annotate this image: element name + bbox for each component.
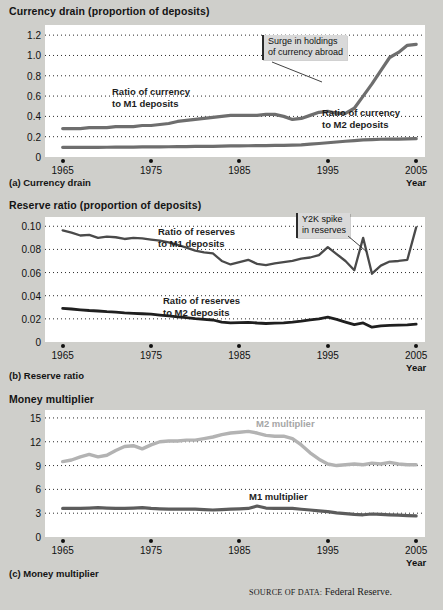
y-tick-label: 15 — [3, 412, 41, 423]
label-ratio-currency-m2: Ratio of currencyto M2 deposits — [322, 107, 400, 131]
y-tick-label: 0.2 — [3, 131, 41, 142]
panel-b-caption: (b) Reserve ratio — [9, 370, 84, 381]
y-tick-label: 9 — [3, 460, 41, 471]
y-tick-label: 3 — [3, 508, 41, 519]
label-ratio-currency-m1: Ratio of currencyto M1 deposits — [112, 86, 190, 110]
label-m1-multiplier: M1 multiplier — [249, 491, 308, 503]
y-tick-label: 0.02 — [3, 313, 41, 324]
x-tick-marker — [237, 159, 241, 163]
x-tick-marker — [61, 539, 65, 543]
figure-root: Currency drain (proportion of deposits) … — [0, 0, 443, 610]
label-m2-multiplier: M2 multiplier — [256, 418, 315, 430]
panel-money-multiplier: Money multiplier (c) Money multiplier SO… — [0, 390, 443, 610]
x-tick-marker — [326, 539, 330, 543]
x-tick-marker — [149, 159, 153, 163]
callout-y2k-spike: Y2K spikein reserves — [296, 213, 350, 238]
x-tick-marker — [61, 159, 65, 163]
label-ratio-reserves-m1: Ratio of reservesto M1 deposits — [158, 226, 235, 250]
y-tick-label: 0.4 — [3, 111, 41, 122]
panel-c-caption: (c) Money multiplier — [9, 568, 99, 579]
x-tick-marker — [149, 344, 153, 348]
series-line — [63, 506, 416, 516]
x-tick-label: 1985 — [228, 165, 250, 176]
x-tick-marker — [414, 539, 418, 543]
y-tick-label: 0.06 — [3, 267, 41, 278]
y-tick-label: 1.2 — [3, 30, 41, 41]
x-tick-label: 1975 — [140, 545, 162, 556]
callout-surge-holdings: Surge in holdingsof currency abroad — [262, 35, 347, 60]
source-note: SOURCE OF DATA: Federal Reserve. — [249, 586, 392, 597]
chart-svg-(c) Money multiplier — [45, 410, 425, 537]
source-value: Federal Reserve. — [325, 586, 392, 597]
y-tick-label: 0.6 — [3, 91, 41, 102]
plot-area-currency-drain — [45, 25, 425, 157]
x-tick-marker — [149, 539, 153, 543]
y-tick-label: 0 — [3, 532, 41, 543]
y-tick-label: 0 — [3, 337, 41, 348]
x-tick-marker — [414, 159, 418, 163]
x-tick-label: 1985 — [228, 545, 250, 556]
y-tick-label: 6 — [3, 484, 41, 495]
x-tick-marker — [237, 539, 241, 543]
x-tick-marker — [326, 344, 330, 348]
panel-a-axis-title: Currency drain (proportion of deposits) — [9, 5, 210, 17]
x-tick-label: 1995 — [317, 545, 339, 556]
label-ratio-reserves-m2: Ratio of reservesto M2 deposits — [163, 295, 240, 319]
plot-area-money-multiplier — [45, 410, 425, 537]
series-line — [63, 227, 416, 273]
y-tick-label: 1.0 — [3, 50, 41, 61]
x-tick-label: 1985 — [228, 350, 250, 361]
x-tick-label: 1995 — [317, 165, 339, 176]
x-tick-label: 2005 — [405, 545, 427, 556]
x-tick-label: 1965 — [52, 165, 74, 176]
y-tick-label: 12 — [3, 436, 41, 447]
x-tick-label: 2005 — [405, 350, 427, 361]
x-axis-label: Year — [406, 177, 426, 188]
source-prefix: SOURCE OF DATA: — [249, 588, 322, 597]
y-tick-label: 0.10 — [3, 221, 41, 232]
series-line — [63, 139, 416, 148]
x-tick-marker — [414, 344, 418, 348]
x-tick-marker — [61, 344, 65, 348]
series-line — [63, 431, 416, 465]
x-tick-marker — [237, 344, 241, 348]
x-tick-marker — [326, 159, 330, 163]
panel-reserve-ratio: Reserve ratio (proportion of deposits) (… — [0, 195, 443, 390]
panel-c-axis-title: Money multiplier — [9, 393, 94, 405]
x-tick-label: 1965 — [52, 350, 74, 361]
panel-b-axis-title: Reserve ratio (proportion of deposits) — [9, 199, 201, 211]
x-tick-label: 1965 — [52, 545, 74, 556]
x-tick-label: 1995 — [317, 350, 339, 361]
panel-currency-drain: Currency drain (proportion of deposits) … — [0, 0, 443, 195]
x-axis-label: Year — [406, 362, 426, 373]
panel-a-caption: (a) Currency drain — [9, 177, 91, 188]
y-tick-label: 0.04 — [3, 290, 41, 301]
x-tick-label: 2005 — [405, 165, 427, 176]
y-tick-label: 0.08 — [3, 244, 41, 255]
y-tick-label: 0 — [3, 152, 41, 163]
x-tick-label: 1975 — [140, 350, 162, 361]
x-axis-label: Year — [406, 557, 426, 568]
y-tick-label: 0.8 — [3, 70, 41, 81]
chart-svg-(a) Currency drain — [45, 25, 425, 157]
x-tick-label: 1975 — [140, 165, 162, 176]
